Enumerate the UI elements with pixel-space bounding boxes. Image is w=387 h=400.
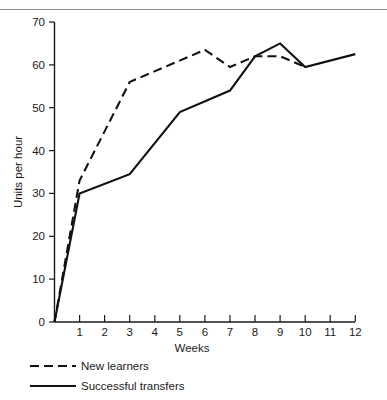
y-axis-ticks [49, 22, 55, 322]
x-tick-label: 4 [152, 326, 159, 338]
x-axis-ticks [80, 315, 356, 322]
x-tick-label: 12 [349, 326, 362, 338]
x-tick-label: 3 [126, 326, 132, 338]
y-axis-tick-labels: 0 10 20 30 40 50 60 70 [32, 16, 45, 328]
x-tick-label: 7 [227, 326, 233, 338]
y-axis-title: Units per hour [12, 136, 24, 208]
legend-label-successful-transfers: Successful transfers [81, 380, 185, 392]
x-tick-label: 8 [252, 326, 258, 338]
y-tick-label: 40 [32, 145, 45, 157]
x-tick-label: 1 [76, 326, 82, 338]
x-tick-label: 5 [177, 326, 183, 338]
chart-legend: New learners Successful transfers [30, 360, 185, 392]
y-tick-label: 20 [32, 230, 45, 242]
x-tick-label: 9 [277, 326, 283, 338]
line-chart: 0 10 20 30 40 50 60 70 1 2 [0, 0, 387, 400]
y-tick-label: 50 [32, 102, 45, 114]
series-line-successful-transfers [55, 43, 356, 322]
y-tick-label: 70 [32, 16, 45, 28]
x-tick-label: 2 [101, 326, 107, 338]
x-tick-label: 10 [299, 326, 312, 338]
y-tick-label: 0 [39, 316, 45, 328]
x-axis-title: Weeks [175, 342, 210, 354]
y-tick-label: 60 [32, 59, 45, 71]
x-tick-label: 6 [202, 326, 208, 338]
x-axis-tick-labels: 1 2 3 4 5 6 7 8 9 10 11 12 [76, 326, 361, 338]
y-tick-label: 10 [32, 273, 45, 285]
chart-page: 0 10 20 30 40 50 60 70 1 2 [0, 0, 387, 400]
y-tick-label: 30 [32, 187, 45, 199]
x-tick-label: 11 [324, 326, 336, 338]
legend-label-new-learners: New learners [81, 360, 149, 372]
series-line-new-learners [55, 50, 306, 322]
